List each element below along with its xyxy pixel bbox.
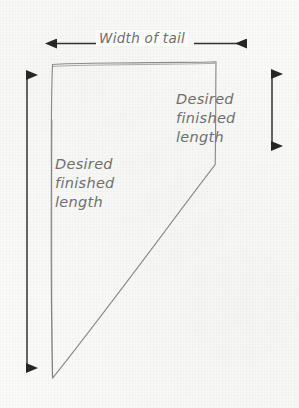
- right-length-line-2: finished: [176, 109, 236, 128]
- left-length-line-3: length: [55, 193, 115, 212]
- diagram-vector-layer: [0, 0, 299, 408]
- left-length-line-1: Desired: [55, 155, 115, 174]
- right-desired-finished-length-label: Desired finished length: [176, 90, 236, 147]
- right-length-line-1: Desired: [176, 90, 236, 109]
- left-length-line-2: finished: [55, 174, 115, 193]
- width-of-tail-label: Width of tail: [96, 30, 188, 46]
- right-length-line-3: length: [176, 128, 236, 147]
- diagram-page: Width of tail Desired finished length De…: [0, 0, 299, 408]
- left-desired-finished-length-label: Desired finished length: [55, 155, 115, 212]
